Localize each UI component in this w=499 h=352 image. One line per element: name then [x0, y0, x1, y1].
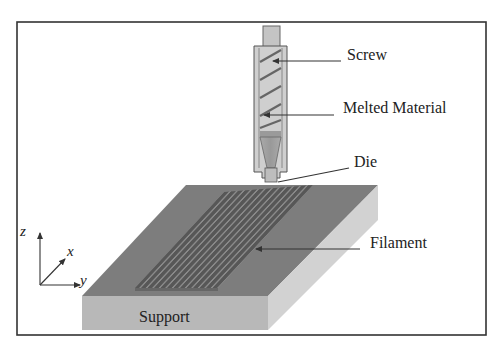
axis-label-x: x: [66, 243, 74, 259]
label-melted-material: Melted Material: [343, 99, 447, 116]
label-filament: Filament: [370, 234, 427, 251]
diagram-canvas: Screw Melted Material Die Filament Suppo…: [0, 0, 499, 352]
die-tip: [265, 168, 277, 182]
axis-label-z: z: [19, 223, 26, 239]
screw-shaft-top: [263, 26, 280, 48]
label-support: Support: [139, 308, 190, 326]
label-die: Die: [354, 153, 377, 170]
axis-label-y: y: [78, 272, 87, 288]
extruder-nozzle: [254, 26, 287, 182]
label-screw: Screw: [347, 46, 387, 63]
melted-material-region: [260, 131, 281, 137]
